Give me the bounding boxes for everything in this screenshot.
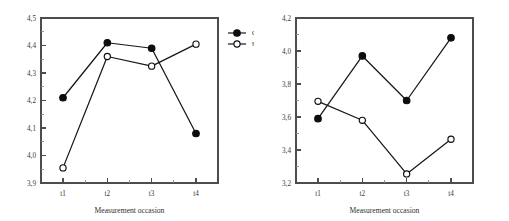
y-tick-label: 4,4 (27, 42, 36, 50)
y-tick-label: 4,0 (27, 152, 36, 160)
data-point-deceased-t1 (60, 94, 67, 101)
series-line-deceased (318, 38, 451, 119)
legend-label-survivor: survivor (252, 39, 254, 48)
y-tick-label: 4,1 (27, 125, 36, 133)
x-axis-title: Measurement occasion (350, 206, 420, 215)
series-line-survivor (318, 101, 451, 174)
x-tick-label: t4 (448, 190, 454, 198)
data-point-survivor-t1 (60, 165, 66, 171)
series-line-survivor (63, 44, 196, 168)
data-point-deceased-t3 (148, 45, 155, 52)
chart-right-canvas: 3,23,43,63,84,04,2t1t2t3t4Measurement oc… (255, 0, 509, 221)
y-tick-label: 4,3 (27, 70, 36, 78)
x-axis-title: Measurement occasion (95, 206, 165, 215)
y-tick-label: 3,6 (282, 114, 291, 122)
data-point-survivor-t4 (193, 41, 199, 47)
y-tick-label: 4,2 (27, 97, 36, 105)
data-point-deceased-t4 (448, 35, 455, 42)
x-tick-label: t2 (360, 190, 366, 198)
y-tick-label: 3,8 (282, 81, 291, 89)
y-tick-label: 3,9 (27, 180, 36, 188)
data-point-survivor-t3 (404, 171, 410, 177)
chart-panel-right: 3,23,43,63,84,04,2t1t2t3t4Measurement oc… (255, 0, 509, 221)
data-point-survivor-t2 (359, 117, 365, 123)
x-tick-label: t4 (193, 190, 199, 198)
x-tick-label: t3 (149, 190, 155, 198)
data-point-deceased-t4 (193, 130, 200, 137)
x-tick-label: t2 (105, 190, 111, 198)
data-point-survivor-t4 (448, 136, 454, 142)
chart-left-canvas: 3,94,04,14,24,34,44,5t1t2t3t4Measurement… (0, 0, 254, 221)
data-point-deceased-t2 (359, 53, 366, 60)
x-tick-label: t1 (315, 190, 321, 198)
data-point-survivor-t2 (104, 53, 110, 59)
data-point-survivor-t3 (149, 63, 155, 69)
data-point-survivor-t1 (315, 98, 321, 104)
plot-frame (296, 18, 473, 183)
legend-marker-deceased (234, 30, 241, 37)
data-point-deceased-t2 (104, 39, 111, 46)
y-tick-label: 3,2 (282, 180, 291, 188)
y-tick-label: 4,0 (282, 48, 291, 56)
legend-label-deceased: deceased (252, 28, 254, 37)
figure-two-panel-line-charts: 3,94,04,14,24,34,44,5t1t2t3t4Measurement… (0, 0, 509, 221)
chart-panel-left: 3,94,04,14,24,34,44,5t1t2t3t4Measurement… (0, 0, 254, 221)
data-point-deceased-t3 (403, 97, 410, 104)
y-tick-label: 3,4 (282, 147, 291, 155)
x-tick-label: t1 (60, 190, 66, 198)
data-point-deceased-t1 (315, 115, 322, 122)
legend-marker-survivor (234, 41, 240, 47)
x-tick-label: t3 (404, 190, 410, 198)
y-tick-label: 4,2 (282, 15, 291, 23)
y-tick-label: 4,5 (27, 15, 36, 23)
series-line-deceased (63, 43, 196, 134)
plot-frame (41, 18, 218, 183)
